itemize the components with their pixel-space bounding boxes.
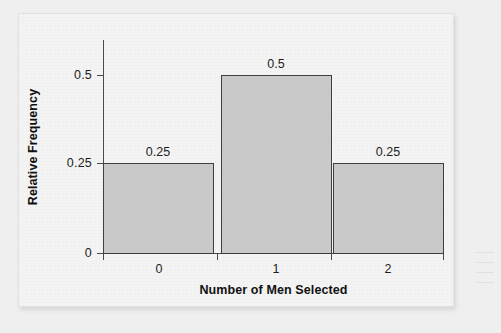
y-tick-mark-05 bbox=[97, 75, 103, 76]
x-tick-mark-2 bbox=[331, 254, 332, 260]
artifact-line-3 bbox=[476, 272, 494, 273]
y-tick-label-05: 0.5 bbox=[32, 68, 92, 82]
y-tick-label-0: 0 bbox=[32, 246, 92, 260]
x-tick-mark-left bbox=[103, 254, 104, 260]
artifact-line-2 bbox=[476, 262, 494, 263]
y-axis-title: Relative Frequency bbox=[26, 67, 40, 227]
bar-category-2 bbox=[333, 163, 444, 254]
relative-frequency-bar-chart: 0 0.25 0.5 0.25 0.5 0.25 0 1 2 Number of… bbox=[0, 0, 501, 333]
artifact-line-1 bbox=[476, 252, 494, 253]
bar-value-label-1: 0.5 bbox=[246, 57, 306, 71]
x-axis-title: Number of Men Selected bbox=[103, 283, 444, 297]
bar-value-label-0: 0.25 bbox=[128, 145, 188, 159]
x-tick-label-1: 1 bbox=[256, 262, 296, 276]
x-tick-label-0: 0 bbox=[139, 262, 179, 276]
artifact-line-4 bbox=[476, 282, 494, 283]
x-tick-label-2: 2 bbox=[368, 262, 408, 276]
y-tick-label-025: 0.25 bbox=[32, 156, 92, 170]
y-tick-label-0-wrap: 0 bbox=[30, 246, 92, 260]
bar-category-0 bbox=[103, 163, 214, 254]
page-edge-artifact bbox=[476, 252, 494, 304]
x-tick-mark-right bbox=[443, 254, 444, 260]
bar-category-1 bbox=[221, 75, 332, 254]
bar-value-label-2: 0.25 bbox=[358, 145, 418, 159]
x-tick-mark-1 bbox=[217, 254, 218, 260]
